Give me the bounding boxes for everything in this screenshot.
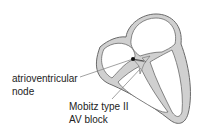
av-node-marker: [131, 57, 135, 61]
label-mobitz-type: Mobitz type II: [69, 100, 128, 113]
label-av-block: AV block: [69, 113, 108, 126]
label-node: node: [12, 85, 34, 98]
label-atrioventricular: atrioventricular: [12, 72, 78, 85]
